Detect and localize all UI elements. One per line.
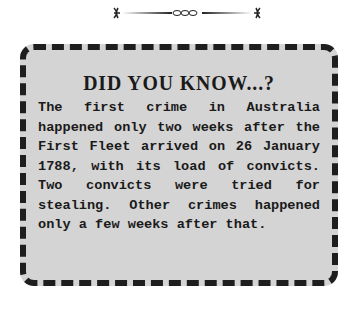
box-title: DID YOU KNOW...? bbox=[41, 70, 316, 96]
decorative-divider bbox=[112, 2, 262, 24]
did-you-know-box: DID YOU KNOW...? The first crime in Aust… bbox=[20, 44, 338, 286]
box-body-text: The first crime in Australia happened on… bbox=[38, 98, 320, 235]
